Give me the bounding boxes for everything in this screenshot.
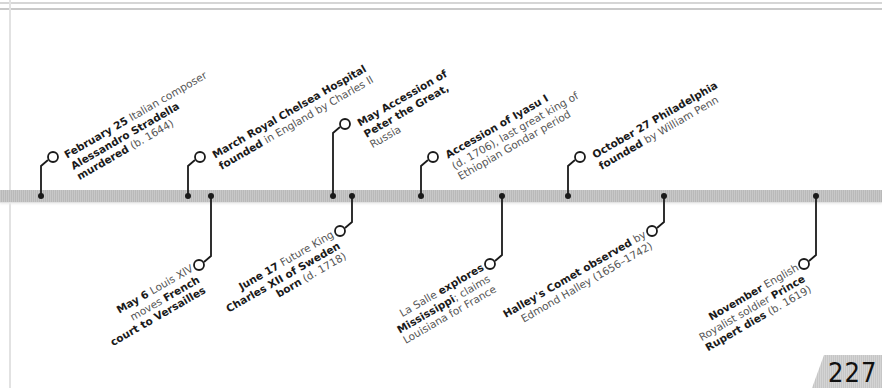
connector-feb25 (41, 160, 48, 196)
event-dot-halley (661, 193, 667, 199)
event-dot-oct27 (565, 193, 571, 199)
event-dot-may (330, 193, 336, 199)
connector-june17 (345, 196, 352, 228)
event-ring-june17 (335, 226, 345, 236)
connector-november (809, 196, 816, 261)
event-dot-lasalle (499, 193, 505, 199)
connector-march (188, 160, 195, 196)
connector-may (333, 127, 340, 196)
event-ring-iyasu (428, 152, 438, 162)
event-ring-feb25 (48, 152, 58, 162)
connector-oct27 (568, 160, 575, 196)
event-dot-november (813, 193, 819, 199)
event-dot-feb25 (38, 193, 44, 199)
event-ring-march (195, 152, 205, 162)
event-ring-may (340, 119, 350, 129)
connector-halley (657, 196, 664, 228)
event-dot-may6 (208, 193, 214, 199)
connector-may6 (204, 196, 211, 262)
event-ring-oct27 (575, 152, 585, 162)
event-dot-june17 (349, 193, 355, 199)
event-dot-march (185, 193, 191, 199)
connector-lasalle (495, 196, 502, 261)
event-dot-iyasu (418, 193, 424, 199)
event-ring-may6 (194, 260, 204, 270)
event-ring-lasalle (485, 259, 495, 269)
page-number: 227 (812, 355, 882, 388)
connector-iyasu (421, 160, 428, 196)
event-ring-halley (647, 226, 657, 236)
event-ring-november (799, 259, 809, 269)
